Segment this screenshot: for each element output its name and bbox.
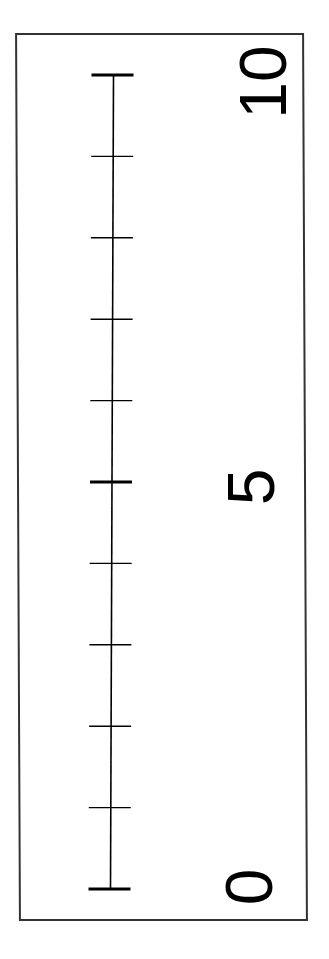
label-five: 5	[218, 469, 284, 506]
label-zero: 0	[216, 869, 282, 906]
label-ten: 10	[230, 45, 296, 118]
